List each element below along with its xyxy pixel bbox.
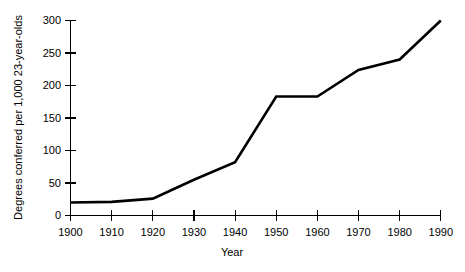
y-tick-label: 0 (55, 209, 61, 221)
y-axis-title: Degrees conferred per 1,000 23-year-olds (12, 15, 24, 220)
chart-canvas: 0 50 100 150 200 250 300 1900 1910 1920 (0, 0, 465, 272)
x-axis-title: Year (221, 246, 244, 258)
x-tick-label: 1990 (429, 226, 453, 238)
x-tick-label: 1930 (182, 226, 206, 238)
x-tick-label: 1960 (305, 226, 329, 238)
y-tick-label: 150 (43, 112, 61, 124)
x-tick-label: 1950 (264, 226, 288, 238)
line-chart: 0 50 100 150 200 250 300 1900 1910 1920 (0, 0, 465, 272)
y-tick-label: 50 (49, 177, 61, 189)
x-tick-label: 1940 (223, 226, 247, 238)
y-tick-label: 200 (43, 79, 61, 91)
y-tick-label: 300 (43, 14, 61, 26)
x-tick-label: 1970 (346, 226, 370, 238)
x-tick-label: 1920 (141, 226, 165, 238)
x-tick-label: 1910 (99, 226, 123, 238)
y-tick-label: 100 (43, 144, 61, 156)
y-tick-label: 250 (43, 47, 61, 59)
x-tick-label: 1900 (58, 226, 82, 238)
x-tick-label: 1980 (387, 226, 411, 238)
